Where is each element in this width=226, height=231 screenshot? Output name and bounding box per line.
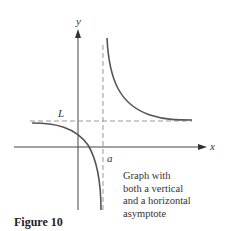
- graph-caption: Graph with both a vertical and a horizon…: [123, 170, 191, 220]
- caption-line: and a horizontal: [123, 195, 191, 208]
- y-axis-label: y: [76, 16, 81, 27]
- vertical-asymptote-label: a: [107, 153, 113, 164]
- horizontal-asymptote-label: L: [58, 108, 64, 119]
- curve-left-branch: [32, 123, 101, 210]
- caption-line: both a vertical: [123, 183, 191, 196]
- caption-line: asymptote: [123, 208, 191, 221]
- y-axis-arrow-icon: [75, 29, 81, 38]
- caption-line: Graph with: [123, 170, 191, 183]
- x-axis-label: x: [210, 141, 215, 152]
- figure-label: Figure 10: [14, 215, 63, 230]
- x-axis-arrow-icon: [198, 144, 207, 150]
- graph-canvas: [0, 0, 226, 231]
- curve-right-branch: [107, 38, 192, 120]
